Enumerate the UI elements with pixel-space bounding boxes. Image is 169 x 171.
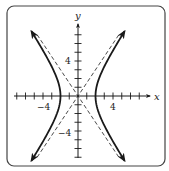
x-axis-label: x: [154, 91, 160, 102]
y-axis-label: y: [74, 10, 81, 21]
x-tick-label-neg4: −4: [37, 102, 51, 112]
y-tick-label-4: 4: [65, 56, 71, 66]
graph-frame: [7, 6, 165, 166]
axes: [14, 24, 150, 158]
hyperbola-graph: x y −4 4 4 −4: [0, 0, 169, 171]
y-tick-label-neg4: −4: [58, 128, 72, 138]
x-tick-label-4: 4: [110, 102, 116, 112]
